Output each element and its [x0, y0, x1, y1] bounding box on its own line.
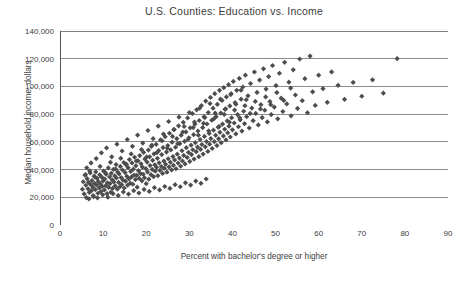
scatter-chart: U.S. Counties: Education vs. Income Medi…: [0, 0, 468, 281]
x-tick-label: 40: [217, 229, 247, 238]
y-tick-label: 100,000: [0, 82, 54, 91]
y-tick-label: 40,000: [0, 165, 54, 174]
plot-area: [60, 31, 448, 225]
x-tick-label: 80: [390, 229, 420, 238]
x-tick-label: 30: [174, 229, 204, 238]
y-tick-label: 120,000: [0, 54, 54, 63]
x-tick-label: 10: [88, 229, 118, 238]
x-tick-label: 20: [131, 229, 161, 238]
x-tick-label: 70: [347, 229, 377, 238]
x-tick-label: 90: [433, 229, 463, 238]
y-tick-label: 140,000: [0, 27, 54, 36]
y-tick-label: 60,000: [0, 137, 54, 146]
x-axis-label: Percent with bachelor's degree or higher: [60, 252, 448, 261]
y-tick-label: 20,000: [0, 193, 54, 202]
data-points: [80, 53, 400, 201]
x-tick-label: 50: [261, 229, 291, 238]
x-tick-label: 60: [304, 229, 334, 238]
plot-svg: [60, 31, 448, 225]
x-tick-label: 0: [45, 229, 75, 238]
y-tick-label: 80,000: [0, 110, 54, 119]
